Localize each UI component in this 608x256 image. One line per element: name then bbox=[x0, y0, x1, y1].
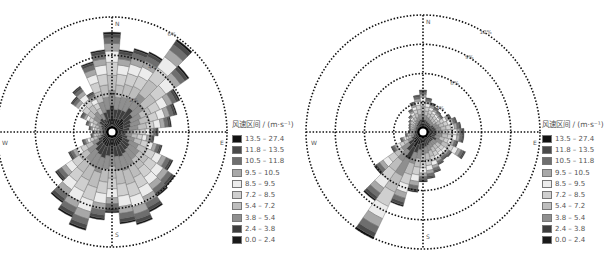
legend-item: 7.2 – 8.5 bbox=[232, 189, 294, 200]
legend-swatch bbox=[542, 225, 552, 233]
legend-item: 7.2 – 8.5 bbox=[542, 189, 604, 200]
legend-item: 3.8 – 5.4 bbox=[232, 212, 294, 223]
legend-swatch bbox=[542, 214, 552, 222]
wind-rose-left: 2%4%6%NESW bbox=[0, 0, 240, 256]
legend-item: 13.5 – 27.4 bbox=[232, 133, 294, 144]
direction-label-s: S bbox=[426, 233, 430, 240]
legend-label: 9.5 – 10.5 bbox=[555, 169, 590, 177]
ring-label: 9% bbox=[465, 54, 474, 60]
legend-label: 3.8 – 5.4 bbox=[245, 214, 275, 222]
legend-label: 8.5 – 9.5 bbox=[245, 180, 275, 188]
ring-label: 6% bbox=[450, 80, 459, 86]
legend-swatch bbox=[232, 169, 242, 177]
legend-swatch bbox=[542, 157, 552, 165]
legend-right: 风速区间 / (m·s⁻¹) 13.5 – 27.411.8 – 13.510.… bbox=[542, 118, 604, 246]
legend-title: 风速区间 / (m·s⁻¹) bbox=[542, 118, 604, 129]
ring-label: 2% bbox=[129, 97, 138, 103]
legend-label: 13.5 – 27.4 bbox=[245, 135, 284, 143]
legend-swatch bbox=[542, 180, 552, 188]
legend-item: 3.8 – 5.4 bbox=[542, 212, 604, 223]
legend-swatch bbox=[542, 202, 552, 210]
legend-swatch bbox=[232, 135, 242, 143]
legend-item: 13.5 – 27.4 bbox=[542, 133, 604, 144]
direction-label-w: W bbox=[2, 139, 8, 146]
legend-item: 8.5 – 9.5 bbox=[232, 178, 294, 189]
legend-swatch bbox=[232, 146, 242, 154]
legend-title: 风速区间 / (m·s⁻¹) bbox=[232, 118, 294, 129]
legend-swatch bbox=[542, 135, 552, 143]
direction-label-w: W bbox=[311, 139, 317, 146]
legend-item: 9.5 – 10.5 bbox=[232, 167, 294, 178]
legend-label: 7.2 – 8.5 bbox=[555, 191, 585, 199]
direction-label-e: E bbox=[533, 139, 537, 146]
legend-swatch bbox=[542, 191, 552, 199]
legend-label: 5.4 – 7.2 bbox=[245, 202, 275, 210]
direction-label-n: N bbox=[115, 20, 120, 27]
legend-swatch bbox=[542, 146, 552, 154]
legend-swatch bbox=[232, 180, 242, 188]
legend-label: 2.4 – 3.8 bbox=[555, 225, 585, 233]
legend-label: 0.0 – 2.4 bbox=[555, 236, 585, 244]
legend-label: 0.0 – 2.4 bbox=[245, 236, 275, 244]
legend-item: 0.0 – 2.4 bbox=[232, 235, 294, 246]
ring-label: 12% bbox=[480, 29, 492, 35]
legend-swatch bbox=[232, 202, 242, 210]
legend-label: 7.2 – 8.5 bbox=[245, 191, 275, 199]
legend-swatch bbox=[542, 169, 552, 177]
legend-label: 3.8 – 5.4 bbox=[555, 214, 585, 222]
legend-items: 13.5 – 27.411.8 – 13.510.5 – 11.89.5 – 1… bbox=[542, 133, 604, 246]
ring-label: 6% bbox=[168, 31, 177, 37]
ring-label: 3% bbox=[436, 105, 445, 111]
legend-swatch bbox=[232, 157, 242, 165]
legend-item: 5.4 – 7.2 bbox=[232, 201, 294, 212]
legend-item: 2.4 – 3.8 bbox=[542, 223, 604, 234]
legend-item: 2.4 – 3.8 bbox=[232, 223, 294, 234]
legend-item: 8.5 – 9.5 bbox=[542, 178, 604, 189]
legend-item: 5.4 – 7.2 bbox=[542, 201, 604, 212]
legend-item: 11.8 – 13.5 bbox=[542, 144, 604, 155]
legend-items: 13.5 – 27.411.8 – 13.510.5 – 11.89.5 – 1… bbox=[232, 133, 294, 246]
legend-label: 13.5 – 27.4 bbox=[555, 135, 594, 143]
direction-label-s: S bbox=[115, 231, 119, 238]
legend-left: 风速区间 / (m·s⁻¹) 13.5 – 27.411.8 – 13.510.… bbox=[232, 118, 294, 246]
legend-label: 11.8 – 13.5 bbox=[555, 146, 594, 154]
legend-swatch bbox=[542, 236, 552, 244]
legend-swatch bbox=[232, 191, 242, 199]
legend-swatch bbox=[232, 236, 242, 244]
legend-label: 5.4 – 7.2 bbox=[555, 202, 585, 210]
legend-label: 10.5 – 11.8 bbox=[555, 157, 594, 165]
legend-label: 2.4 – 3.8 bbox=[245, 225, 275, 233]
legend-item: 10.5 – 11.8 bbox=[542, 156, 604, 167]
ring-label: 4% bbox=[148, 64, 157, 70]
direction-label-e: E bbox=[220, 139, 224, 146]
legend-item: 9.5 – 10.5 bbox=[542, 167, 604, 178]
legend-label: 8.5 – 9.5 bbox=[555, 180, 585, 188]
legend-item: 11.8 – 13.5 bbox=[232, 144, 294, 155]
legend-label: 9.5 – 10.5 bbox=[245, 169, 280, 177]
legend-label: 10.5 – 11.8 bbox=[245, 157, 284, 165]
legend-swatch bbox=[232, 214, 242, 222]
direction-label-n: N bbox=[426, 18, 431, 25]
legend-item: 0.0 – 2.4 bbox=[542, 235, 604, 246]
legend-label: 11.8 – 13.5 bbox=[245, 146, 284, 154]
legend-swatch bbox=[232, 225, 242, 233]
legend-item: 10.5 – 11.8 bbox=[232, 156, 294, 167]
